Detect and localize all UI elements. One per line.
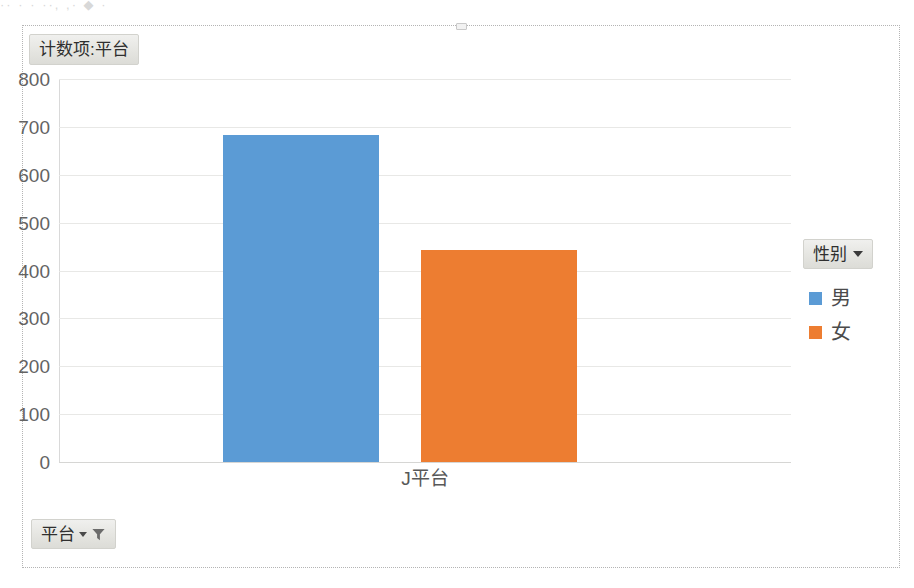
scan-artifact-strip: ·· · · ··, ,· ◆ ·: [0, 0, 914, 16]
resize-handle-top-center[interactable]: [456, 23, 467, 30]
plot-area: 0100200300400500600700800: [59, 79, 791, 462]
y-axis-tick-label: 400: [18, 261, 50, 280]
bars-group: [59, 79, 791, 462]
legend-field-button[interactable]: 性别: [803, 239, 873, 269]
axis-field-label: 平台: [41, 526, 75, 543]
legend-items: 男女: [801, 281, 897, 349]
y-axis-tick-label: 500: [18, 213, 50, 232]
y-axis-tick-label: 300: [18, 309, 50, 328]
category-axis-label: J平台: [59, 469, 791, 488]
chart-title-label: 计数项:平台: [39, 41, 129, 58]
y-axis-tick-label: 700: [18, 117, 50, 136]
y-axis-tick-label: 200: [18, 357, 50, 376]
y-axis-tick-label: 800: [18, 70, 50, 89]
bar-男-J平台[interactable]: [223, 135, 379, 462]
legend-swatch: [809, 292, 822, 305]
y-axis-tick-label: 600: [18, 165, 50, 184]
y-axis-tick-label: 0: [39, 453, 50, 472]
chevron-down-icon[interactable]: [853, 251, 863, 257]
chevron-down-icon[interactable]: [79, 532, 87, 537]
legend-swatch: [809, 326, 822, 339]
legend: 性别 男女: [801, 239, 897, 349]
y-axis-tick-label: 100: [18, 405, 50, 424]
gridline: [59, 462, 791, 463]
legend-item[interactable]: 女: [809, 315, 897, 349]
legend-item[interactable]: 男: [809, 281, 897, 315]
chart-title-field-button[interactable]: 计数项:平台: [29, 34, 139, 65]
bar-女-J平台[interactable]: [421, 250, 577, 462]
legend-label: 女: [831, 322, 851, 342]
legend-label: 男: [831, 288, 851, 308]
axis-field-button[interactable]: 平台: [31, 519, 116, 549]
legend-field-label: 性别: [813, 246, 847, 263]
pivot-chart-frame[interactable]: 计数项:平台 0100200300400500600700800 J平台 性别 …: [22, 25, 900, 568]
filter-funnel-icon[interactable]: [91, 527, 106, 542]
